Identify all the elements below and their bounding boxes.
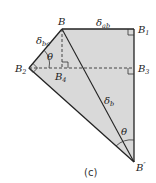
- label-delta-ab: δab: [96, 17, 110, 30]
- label-B1: B1: [137, 24, 150, 37]
- label-B: B: [57, 16, 65, 27]
- caption: (c): [84, 167, 97, 178]
- kinematic-diagram: B B1 B2 B3 B4 B″ δab δbc δb θ θ (c): [0, 0, 156, 183]
- label-B3: B3: [137, 63, 150, 76]
- label-theta-bottom: θ: [121, 126, 127, 137]
- label-Bpp: B″: [135, 161, 146, 173]
- label-delta-bc: δbc: [36, 35, 50, 48]
- label-theta-top: θ: [47, 51, 53, 62]
- label-B2: B2: [14, 63, 27, 76]
